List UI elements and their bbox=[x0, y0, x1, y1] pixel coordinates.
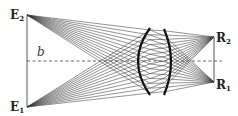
ray-segment bbox=[27, 69, 150, 107]
label-e1: E1 bbox=[10, 101, 24, 114]
label-e2: E2 bbox=[10, 9, 24, 22]
ray-segment bbox=[150, 61, 165, 64]
label-r1: R1 bbox=[216, 79, 231, 92]
ray-segment bbox=[27, 49, 150, 107]
ray-segment bbox=[150, 69, 165, 73]
ray-segment bbox=[27, 15, 150, 59]
ray-segment bbox=[165, 49, 214, 82]
ray-diagram bbox=[0, 0, 238, 116]
ray-segment bbox=[27, 54, 150, 107]
label-r1-main: R bbox=[216, 78, 226, 92]
ray-segment bbox=[27, 15, 150, 78]
label-r2-main: R bbox=[216, 31, 226, 45]
ray-segment bbox=[27, 15, 150, 40]
ray-segment bbox=[27, 15, 150, 35]
ray-segment bbox=[27, 15, 150, 88]
ray-segment bbox=[27, 15, 150, 45]
label-b: b bbox=[37, 46, 45, 58]
ray-segment bbox=[27, 74, 150, 107]
label-r2-sub: 2 bbox=[226, 37, 231, 46]
ray-segment bbox=[150, 52, 165, 54]
label-r2: R2 bbox=[216, 32, 231, 45]
label-r1-sub: 1 bbox=[226, 84, 231, 93]
ray-segment bbox=[150, 56, 165, 59]
label-e1-sub: 1 bbox=[19, 106, 24, 115]
label-e2-sub: 2 bbox=[19, 14, 24, 23]
ray-segment bbox=[27, 15, 150, 54]
ray-segment bbox=[27, 64, 150, 107]
ray-segment bbox=[165, 37, 214, 69]
ray-segment bbox=[150, 65, 165, 69]
ray-segment bbox=[27, 30, 150, 107]
ray-segment bbox=[27, 35, 150, 107]
ray-segment bbox=[27, 78, 150, 107]
label-e1-main: E bbox=[10, 100, 19, 114]
label-e2-main: E bbox=[10, 8, 19, 22]
